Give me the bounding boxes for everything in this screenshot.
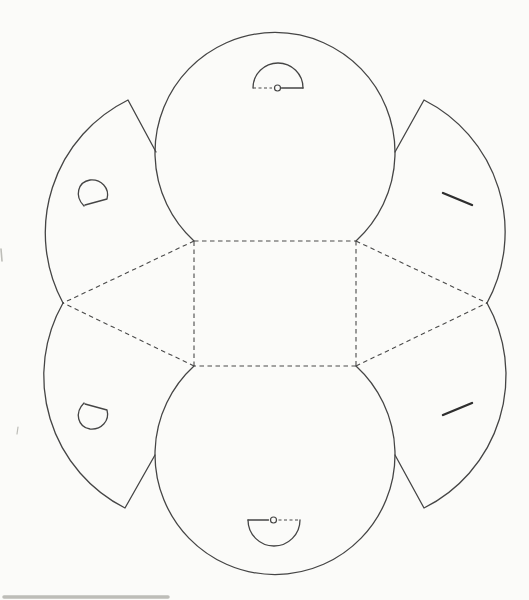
paper-background	[0, 0, 529, 600]
scan-speck-left-edge	[1, 249, 2, 261]
papercraft-template-sheet	[0, 0, 529, 600]
template-drawing	[0, 0, 529, 600]
